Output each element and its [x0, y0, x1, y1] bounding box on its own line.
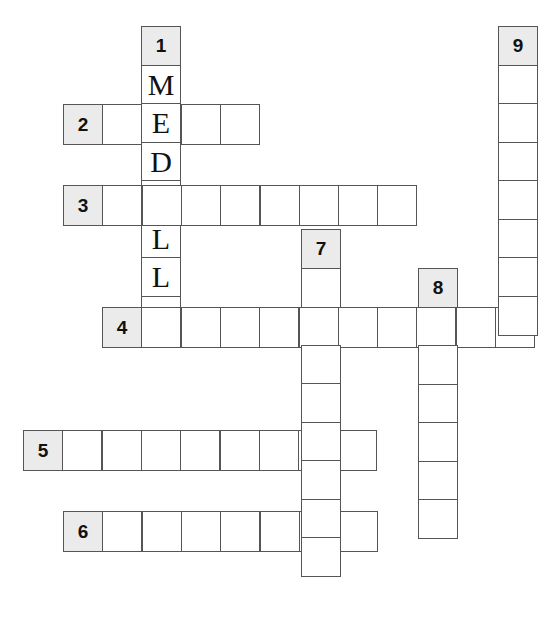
crossword-cell[interactable]: [301, 499, 341, 539]
crossword-cell[interactable]: [102, 511, 142, 552]
clue-number-8: 8: [418, 268, 458, 308]
crossword-cell[interactable]: [102, 430, 142, 471]
crossword-cell[interactable]: [181, 307, 221, 348]
crossword-cell[interactable]: [301, 383, 341, 423]
crossword-cell[interactable]: E: [141, 103, 181, 143]
crossword-cell[interactable]: [301, 422, 341, 462]
crossword-cell[interactable]: M: [141, 65, 181, 105]
crossword-cell[interactable]: [418, 345, 458, 385]
crossword-cell[interactable]: [337, 430, 377, 471]
crossword-cell[interactable]: [220, 185, 260, 226]
crossword-cell[interactable]: [260, 511, 300, 552]
crossword-cell[interactable]: [301, 460, 341, 500]
clue-number-2: 2: [63, 104, 103, 145]
crossword-cell[interactable]: L: [141, 257, 181, 297]
crossword-cell[interactable]: [456, 307, 496, 348]
crossword-cell[interactable]: [142, 511, 182, 552]
crossword-cell[interactable]: [338, 307, 378, 348]
cell-letter: E: [152, 108, 170, 138]
crossword-cell[interactable]: [220, 430, 260, 471]
clue-number-4: 4: [102, 307, 142, 348]
crossword-cell[interactable]: [416, 307, 456, 348]
crossword-cell[interactable]: [299, 185, 339, 226]
crossword-cell[interactable]: [181, 185, 221, 226]
crossword-cell[interactable]: [498, 296, 538, 336]
crossword-cell[interactable]: [181, 511, 221, 552]
cell-letter: D: [150, 147, 172, 177]
cell-letter: L: [152, 224, 170, 254]
crossword-cell[interactable]: [301, 345, 341, 385]
cell-letter: L: [152, 262, 170, 292]
crossword-cell[interactable]: [259, 430, 299, 471]
crossword-cell[interactable]: [418, 461, 458, 501]
clue-number-3: 3: [63, 185, 103, 226]
crossword-cell[interactable]: [338, 185, 378, 226]
crossword-cell[interactable]: [301, 268, 341, 308]
clue-number-5: 5: [23, 430, 63, 471]
crossword-cell[interactable]: [498, 65, 538, 105]
crossword-cell[interactable]: [141, 430, 181, 471]
crossword-cell[interactable]: [418, 422, 458, 462]
crossword-cell[interactable]: [418, 384, 458, 424]
crossword-cell[interactable]: [301, 537, 341, 577]
crossword-cell[interactable]: [498, 103, 538, 143]
crossword-cell[interactable]: [180, 430, 220, 471]
crossword-cell[interactable]: D: [141, 142, 181, 182]
crossword-cell[interactable]: [260, 185, 300, 226]
crossword-cell[interactable]: [377, 185, 417, 226]
crossword-cell[interactable]: [418, 499, 458, 539]
crossword-cell[interactable]: [142, 185, 182, 226]
crossword-cell[interactable]: [377, 307, 417, 348]
crossword-cell[interactable]: [498, 219, 538, 259]
crossword-cell[interactable]: [220, 511, 260, 552]
clue-number-6: 6: [63, 511, 103, 552]
crossword-cell[interactable]: [62, 430, 102, 471]
cell-letter: M: [148, 70, 175, 100]
crossword-cell[interactable]: [181, 104, 221, 145]
crossword-cell[interactable]: [220, 104, 260, 145]
crossword-cell[interactable]: [102, 104, 142, 145]
crossword-cell[interactable]: [259, 307, 299, 348]
clue-number-7: 7: [301, 229, 341, 269]
clue-number-9: 9: [498, 26, 538, 66]
crossword-cell[interactable]: [220, 307, 260, 348]
crossword-cell[interactable]: [141, 307, 181, 348]
crossword-cell[interactable]: [498, 142, 538, 182]
crossword-cell[interactable]: [338, 511, 378, 552]
crossword-cell[interactable]: [102, 185, 142, 226]
crossword-cell[interactable]: [498, 180, 538, 220]
crossword-cell[interactable]: [498, 257, 538, 297]
clue-number-1: 1: [141, 26, 181, 66]
crossword-cell[interactable]: [299, 307, 339, 348]
